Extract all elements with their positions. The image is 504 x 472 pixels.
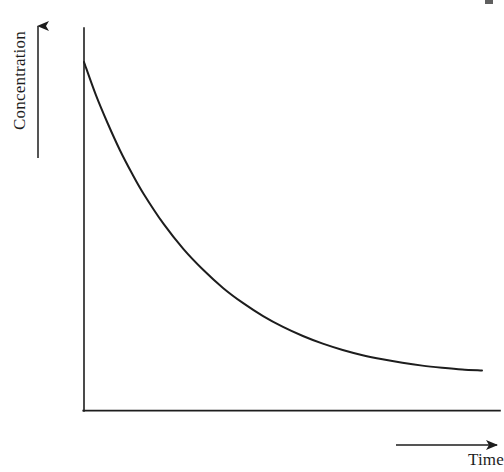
decay-curve-group bbox=[84, 62, 482, 371]
concentration-decay-curve bbox=[84, 62, 482, 371]
x-axis-title: Time bbox=[455, 450, 504, 470]
y-axis-title: Concentration bbox=[0, 20, 40, 142]
scan-speck-artifact bbox=[485, 0, 493, 4]
axis-lines bbox=[83, 28, 500, 411]
concentration-time-figure: Concentration Time bbox=[0, 0, 504, 472]
plot-canvas bbox=[0, 0, 504, 472]
